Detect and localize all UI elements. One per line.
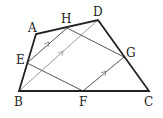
label-d: D: [93, 5, 103, 19]
label-a: A: [27, 21, 37, 35]
label-b: B: [14, 95, 23, 109]
label-g: G: [126, 46, 136, 60]
label-h: H: [61, 12, 71, 26]
geometry-diagram: A H D G C F B E: [0, 0, 163, 118]
label-e: E: [16, 53, 25, 67]
label-f: F: [79, 95, 87, 109]
label-c: C: [144, 95, 153, 109]
